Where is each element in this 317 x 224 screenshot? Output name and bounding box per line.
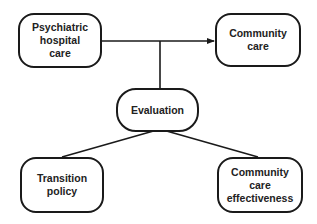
node-label: Community care — [229, 27, 287, 53]
node-label: Community care effectiveness — [227, 166, 294, 205]
edge-evaluation-to-effectiveness — [163, 130, 258, 157]
node-transition-policy: Transition policy — [20, 157, 104, 213]
edge-evaluation-to-transition — [62, 130, 157, 157]
node-evaluation: Evaluation — [116, 88, 199, 132]
diagram-canvas: Psychiatric hospital care Community care… — [0, 0, 317, 224]
node-psychiatric-hospital-care: Psychiatric hospital care — [18, 13, 102, 68]
node-label: Transition policy — [37, 172, 87, 198]
node-label: Evaluation — [131, 104, 184, 117]
node-community-care-effectiveness: Community care effectiveness — [217, 157, 303, 213]
node-label: Psychiatric hospital care — [32, 21, 88, 60]
node-community-care: Community care — [215, 13, 301, 67]
